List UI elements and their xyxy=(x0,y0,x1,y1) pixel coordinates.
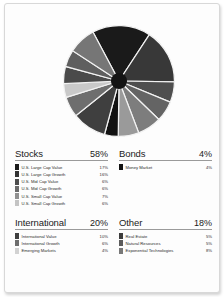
legend-swatch xyxy=(15,186,19,192)
legend-swatch xyxy=(15,164,19,170)
legend-row[interactable]: U.S. Large Cap Value17% xyxy=(22,164,109,171)
legend-rows: International Value10%International Grow… xyxy=(22,233,109,255)
swatch-column xyxy=(119,233,123,255)
panel-divider xyxy=(15,229,108,230)
legend: International Value10%International Grow… xyxy=(15,233,108,255)
legend-swatch xyxy=(15,179,19,185)
panel-title: Bonds xyxy=(119,148,145,159)
legend-label: U.S. Mid Cap Value xyxy=(22,178,59,185)
legend-swatch xyxy=(15,248,19,254)
pie-svg xyxy=(63,25,175,137)
legend-row[interactable]: Exponential Technologies8% xyxy=(126,247,213,254)
legend-label: International Growth xyxy=(22,240,60,247)
legend-value: 4% xyxy=(102,247,108,254)
chart-area xyxy=(5,4,219,144)
report-page: Stocks 58% U.S. Large Cap Value17%U.S. L… xyxy=(4,3,220,293)
panel-bonds: Bonds 4% Money Market4% xyxy=(119,148,212,171)
pie-center-hub xyxy=(111,73,127,89)
legend-row[interactable]: U.S. Mid Cap Growth6% xyxy=(22,185,109,192)
panel-total-percent: 58% xyxy=(90,149,108,159)
legend-value: 6% xyxy=(102,178,108,185)
legend-swatch xyxy=(119,248,123,254)
panel-title: Other xyxy=(119,217,142,228)
legend-row[interactable]: U.S. Small Cap Growth6% xyxy=(22,200,109,207)
legend-row[interactable]: Natural Resources5% xyxy=(126,240,213,247)
panel-divider xyxy=(119,229,212,230)
legend-value: 4% xyxy=(206,164,212,171)
legend-swatch xyxy=(15,200,19,206)
legend-value: 5% xyxy=(206,240,212,247)
legend-panels: Stocks 58% U.S. Large Cap Value17%U.S. L… xyxy=(5,144,219,293)
legend-label: Exponential Technologies xyxy=(126,247,174,254)
legend-value: 16% xyxy=(100,171,108,178)
legend-swatch xyxy=(15,171,19,177)
panel-header: Bonds 4% xyxy=(119,148,212,160)
legend-label: U.S. Large Cap Growth xyxy=(22,171,66,178)
allocation-pie-chart[interactable] xyxy=(63,25,175,137)
swatch-column xyxy=(15,233,19,255)
legend-swatch xyxy=(15,233,19,239)
legend-row[interactable]: Emerging Markets4% xyxy=(22,247,109,254)
legend-row[interactable]: International Value10% xyxy=(22,233,109,240)
legend-swatch xyxy=(15,193,19,199)
legend-row[interactable]: U.S. Mid Cap Value6% xyxy=(22,178,109,185)
legend: Real Estate5%Natural Resources5%Exponent… xyxy=(119,233,212,255)
panel-divider xyxy=(119,160,212,161)
legend-value: 10% xyxy=(100,233,108,240)
legend-value: 6% xyxy=(102,240,108,247)
panel-stocks: Stocks 58% U.S. Large Cap Value17%U.S. L… xyxy=(15,148,108,208)
swatch-column xyxy=(119,164,123,172)
panel-divider xyxy=(15,160,108,161)
panel-header: Other 18% xyxy=(119,217,212,229)
legend-label: U.S. Mid Cap Growth xyxy=(22,185,62,192)
legend-rows: Real Estate5%Natural Resources5%Exponent… xyxy=(126,233,213,255)
legend-value: 5% xyxy=(206,233,212,240)
legend-row[interactable]: U.S. Small Cap Value7% xyxy=(22,193,109,200)
panel-total-percent: 18% xyxy=(194,218,212,228)
legend-label: Real Estate xyxy=(126,233,148,240)
legend-value: 8% xyxy=(206,247,212,254)
legend-label: U.S. Small Cap Value xyxy=(22,193,63,200)
legend-swatch xyxy=(119,240,123,246)
legend-row[interactable]: U.S. Large Cap Growth16% xyxy=(22,171,109,178)
panel-other: Other 18% Real Estate5%Natural Resources… xyxy=(119,217,212,255)
legend-label: International Value xyxy=(22,233,57,240)
panel-title: Stocks xyxy=(15,148,43,159)
panel-title: International xyxy=(15,217,66,228)
panel-total-percent: 4% xyxy=(199,149,212,159)
legend-label: U.S. Small Cap Growth xyxy=(22,200,66,207)
legend-value: 7% xyxy=(102,193,108,200)
legend-label: Money Market xyxy=(126,164,153,171)
legend: Money Market4% xyxy=(119,164,212,172)
panel-header: International 20% xyxy=(15,217,108,229)
swatch-column xyxy=(15,164,19,208)
legend-value: 6% xyxy=(102,200,108,207)
legend-rows: Money Market4% xyxy=(126,164,213,172)
panel-header: Stocks 58% xyxy=(15,148,108,160)
legend-swatch xyxy=(119,164,123,170)
legend: U.S. Large Cap Value17%U.S. Large Cap Gr… xyxy=(15,164,108,208)
legend-swatch xyxy=(15,240,19,246)
legend-value: 17% xyxy=(100,164,108,171)
panel-international: International 20% International Value10%… xyxy=(15,217,108,255)
legend-swatch xyxy=(119,233,123,239)
legend-row[interactable]: International Growth6% xyxy=(22,240,109,247)
legend-label: Emerging Markets xyxy=(22,247,56,254)
legend-value: 6% xyxy=(102,185,108,192)
legend-label: U.S. Large Cap Value xyxy=(22,164,63,171)
legend-row[interactable]: Real Estate5% xyxy=(126,233,213,240)
panel-total-percent: 20% xyxy=(90,218,108,228)
legend-label: Natural Resources xyxy=(126,240,161,247)
legend-rows: U.S. Large Cap Value17%U.S. Large Cap Gr… xyxy=(22,164,109,208)
legend-row[interactable]: Money Market4% xyxy=(126,164,213,171)
